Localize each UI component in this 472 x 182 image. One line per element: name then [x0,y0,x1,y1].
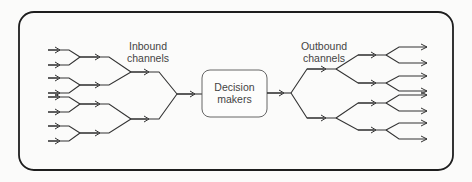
inbound-inputs [48,50,80,141]
inbound-channels-label: Inbound channels [118,40,178,64]
outbound-label-line2: channels [292,52,356,64]
outbound-channels-label: Outbound channels [292,40,356,64]
inbound-level-2 [80,57,131,133]
inbound-level-3 [131,72,177,119]
decision-makers-label: Decision makers [202,81,267,105]
inbound-label-line2: channels [118,52,178,64]
outbound-label-line1: Outbound [292,40,356,52]
inbound-label-line1: Inbound [118,40,178,52]
outbound-outputs [386,47,427,139]
decision-label-line2: makers [202,93,267,105]
decision-label-line1: Decision [202,81,267,93]
